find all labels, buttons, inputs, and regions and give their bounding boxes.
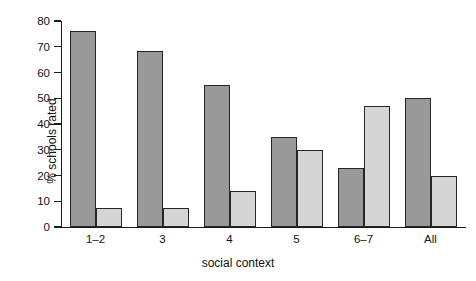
y-axis-tick: 20 bbox=[54, 175, 61, 176]
y-axis-tick-label: 60 bbox=[37, 67, 50, 79]
y-axis-tick: 10 bbox=[54, 201, 61, 202]
x-axis-tick-label: All bbox=[424, 233, 437, 245]
bar bbox=[96, 208, 122, 227]
y-axis-tick: 0 bbox=[54, 226, 61, 227]
bar-group bbox=[129, 21, 196, 227]
x-axis-line bbox=[62, 227, 466, 228]
x-axis-tick-label: 4 bbox=[226, 233, 232, 245]
bar bbox=[405, 98, 431, 227]
x-axis-tick-label: 1–2 bbox=[86, 233, 105, 245]
x-axis-tick-label: 3 bbox=[159, 233, 165, 245]
bar bbox=[163, 208, 189, 227]
x-axis-tick-label: 6–7 bbox=[354, 233, 373, 245]
y-axis-tick: 80 bbox=[54, 20, 61, 21]
y-axis-tick: 30 bbox=[54, 149, 61, 150]
y-axis-tick: 50 bbox=[54, 98, 61, 99]
bar bbox=[70, 31, 96, 227]
bar bbox=[364, 106, 390, 227]
plot-area bbox=[62, 21, 464, 227]
bar bbox=[204, 85, 230, 227]
y-axis-tick-label: 40 bbox=[37, 118, 50, 130]
x-axis-title: social context bbox=[0, 256, 476, 270]
y-axis-tick-label: 70 bbox=[37, 41, 50, 53]
y-axis-tick: 60 bbox=[54, 72, 61, 73]
y-axis-tick-label: 10 bbox=[37, 195, 50, 207]
x-axis-tick-label: 5 bbox=[293, 233, 299, 245]
bar bbox=[271, 137, 297, 227]
bar bbox=[338, 168, 364, 227]
y-axis-tick-label: 50 bbox=[37, 92, 50, 104]
bar-group bbox=[330, 21, 397, 227]
y-axis-tick-label: 30 bbox=[37, 144, 50, 156]
y-axis-tick: 40 bbox=[54, 123, 61, 124]
y-axis-tick-label: 0 bbox=[44, 221, 50, 233]
bar bbox=[431, 176, 457, 228]
y-axis-tick-label: 20 bbox=[37, 170, 50, 182]
bar bbox=[230, 191, 256, 227]
y-axis-tick: 70 bbox=[54, 46, 61, 47]
bar-group bbox=[196, 21, 263, 227]
y-axis-tick-label: 80 bbox=[37, 15, 50, 27]
bar bbox=[137, 51, 163, 227]
bar-chart: % schools rated 01020304050607080 1–2345… bbox=[0, 0, 476, 281]
bar-group bbox=[397, 21, 464, 227]
bar-group bbox=[263, 21, 330, 227]
bar bbox=[297, 150, 323, 227]
bar-group bbox=[62, 21, 129, 227]
